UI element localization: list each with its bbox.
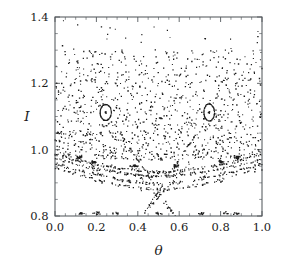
plot-canvas: 0.00.20.40.60.81.00.81.01.21.4θI [0, 0, 285, 259]
scatter-points [54, 20, 262, 216]
x-tick-label-0: 0.0 [46, 220, 64, 234]
y-tick-label-2: 1.2 [30, 76, 48, 90]
x-tick-label-3: 0.6 [170, 220, 188, 234]
x-axis-title: θ [154, 242, 162, 258]
y-axis-title: I [23, 108, 30, 124]
y-tick-label-3: 1.4 [30, 10, 48, 24]
x-tick-label-2: 0.4 [129, 220, 147, 234]
x-tick-label-4: 0.8 [211, 220, 229, 234]
x-tick-label-5: 1.0 [253, 220, 271, 234]
poincare-section-figure: 0.00.20.40.60.81.00.81.01.21.4θI [0, 0, 285, 259]
x-tick-label-1: 0.2 [87, 220, 105, 234]
y-tick-label-0: 0.8 [30, 209, 48, 223]
y-tick-label-1: 1.0 [30, 143, 48, 157]
scatter-point-cloud [54, 20, 262, 216]
axis-labels: 0.00.20.40.60.81.00.81.01.21.4θI [23, 10, 271, 258]
